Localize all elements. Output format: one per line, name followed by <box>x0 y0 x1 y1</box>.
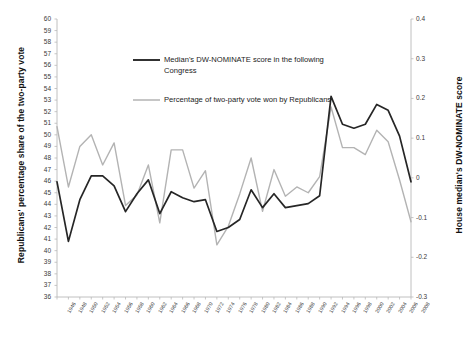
legend-item-label: Congress <box>164 66 197 75</box>
plot-area <box>0 0 475 343</box>
legend-item-label: Percentage of two-party vote won by Repu… <box>164 95 331 104</box>
legend-item-label: Median's DW-NOMINATE score in the follow… <box>164 55 324 64</box>
chart-figure: Republicans' percentage share of the two… <box>0 0 475 343</box>
